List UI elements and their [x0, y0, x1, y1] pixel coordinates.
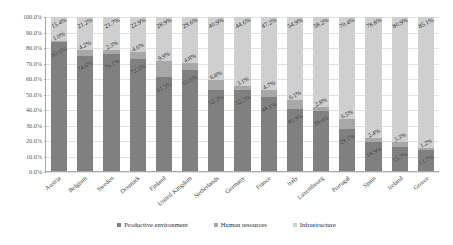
bar-segment-infrastructure[interactable]: 58.2% — [313, 17, 329, 107]
bar-value-label: 61.3% — [155, 80, 172, 93]
stacked-bar[interactable]: 40.9%6.8%52.3% — [208, 17, 224, 171]
bar-slot: 28.9%9.9%61.3% — [151, 17, 177, 171]
y-axis-tick-label: 100.0% — [2, 14, 42, 20]
x-axis-tick-label: Greece — [412, 175, 430, 191]
bar-slot: 80.9%3.3%15.7% — [387, 17, 413, 171]
x-axis-label-slot: Netherlands — [203, 172, 229, 217]
bar-segment-human-resources[interactable]: 6.5% — [339, 119, 355, 128]
bar-value-label: 74.6% — [77, 60, 94, 73]
bar-value-label: 39.0% — [313, 115, 330, 128]
bar-value-label: 40.9% — [286, 113, 303, 126]
stacked-bar[interactable]: 15.4%1.0%83.6% — [51, 17, 67, 171]
bar-segment-productive-environment[interactable]: 29.1% — [339, 129, 355, 171]
bar-segment-human-resources[interactable]: 6.1% — [287, 100, 303, 109]
x-axis-tick-label: Austria — [44, 175, 62, 192]
bar-value-label: 52.3% — [234, 94, 251, 107]
stacked-bar[interactable]: 85.1%1.2%13.7% — [418, 17, 434, 171]
bar-value-label: 21.7% — [103, 17, 120, 30]
bar-segment-productive-environment[interactable]: 52.3% — [208, 90, 224, 171]
bar-segment-productive-environment[interactable]: 13.7% — [418, 150, 434, 171]
bar-value-label: 21.2% — [77, 17, 94, 30]
x-axis-label-slot: Austria — [45, 172, 71, 217]
bar-value-label: 65.6% — [182, 74, 199, 87]
bar-segment-infrastructure[interactable]: 70.4% — [339, 17, 355, 119]
legend-entry[interactable]: Infrastructure — [293, 222, 336, 229]
legend-color-swatch — [117, 223, 121, 227]
stacked-bar[interactable]: 80.9%3.3%15.7% — [392, 17, 408, 171]
legend-entry[interactable]: Productive environment — [117, 222, 188, 229]
x-axis-label-slot: Portugal — [334, 172, 360, 217]
x-axis-tick-label: Finland — [148, 175, 167, 192]
y-axis-tick-label: 10.0% — [2, 153, 42, 159]
x-axis-label-slot: Greece — [413, 172, 439, 217]
x-axis-tick-label: Sweden — [95, 175, 114, 193]
bar-segment-productive-environment[interactable]: 40.9% — [287, 109, 303, 171]
bar-value-label: 70.4% — [339, 17, 356, 30]
legend-label: Productive environment — [124, 222, 188, 229]
bar-segment-human-resources[interactable]: 4.7% — [261, 90, 277, 97]
bar-slot: 47.2%4.7%48.1% — [256, 17, 282, 171]
bar-segment-infrastructure[interactable]: 54.9% — [287, 17, 303, 100]
y-axis-tick-label: 90.0% — [2, 29, 42, 35]
bar-slot: 58.2%2.8%39.0% — [308, 17, 334, 171]
bar-segment-productive-environment[interactable]: 83.6% — [51, 42, 67, 171]
stacked-bar[interactable]: 29.6%4.8%65.6% — [182, 17, 198, 171]
bar-segment-infrastructure[interactable]: 85.1% — [418, 17, 434, 148]
bar-value-label: 40.9% — [208, 17, 225, 30]
bar-segment-productive-environment[interactable]: 72.5% — [130, 59, 146, 171]
y-axis-tick-label: 20.0% — [2, 138, 42, 144]
bar-segment-productive-environment[interactable]: 18.9% — [365, 142, 381, 171]
stacked-bar[interactable]: 70.4%6.5%29.1% — [339, 17, 355, 171]
bar-segment-productive-environment[interactable]: 15.7% — [392, 147, 408, 171]
bar-slot: 21.2%4.2%74.6% — [72, 17, 98, 171]
bar-segment-infrastructure[interactable]: 80.9% — [392, 17, 408, 142]
x-axis-label-slot: Germany — [229, 172, 255, 217]
bar-value-label: 28.9% — [155, 17, 172, 30]
bar-value-label: 85.1% — [417, 17, 434, 30]
bar-slot: 70.4%6.5%29.1% — [334, 17, 360, 171]
x-axis-label-slot: Belgium — [71, 172, 97, 217]
bar-value-label: 58.2% — [313, 17, 330, 30]
stacked-bar[interactable]: 21.2%4.2%74.6% — [77, 17, 93, 171]
stacked-bar[interactable]: 21.7%2.3%76.1% — [103, 17, 119, 171]
bar-slot: 78.8%2.4%18.9% — [360, 17, 386, 171]
bar-value-label: 13.7% — [417, 154, 434, 167]
legend-label: Infrastructure — [300, 222, 336, 229]
bar-segment-productive-environment[interactable]: 52.3% — [234, 90, 250, 171]
stacked-bar[interactable]: 22.9%4.6%72.5% — [130, 17, 146, 171]
stacked-bar[interactable]: 78.8%2.4%18.9% — [365, 17, 381, 171]
bar-value-label: 78.8% — [365, 17, 382, 30]
x-axis-tick-label: Italy — [286, 175, 299, 187]
stacked-bar[interactable]: 28.9%9.9%61.3% — [156, 17, 172, 171]
bar-value-label: 15.4% — [51, 17, 68, 30]
bar-segment-productive-environment[interactable]: 39.0% — [313, 111, 329, 171]
bar-segment-infrastructure[interactable]: 47.2% — [261, 17, 277, 90]
bar-slot: 85.1%1.2%13.7% — [413, 17, 439, 171]
bar-value-label: 29.6% — [182, 17, 199, 30]
bar-segment-productive-environment[interactable]: 76.1% — [103, 54, 119, 171]
bar-segment-productive-environment[interactable]: 48.1% — [261, 97, 277, 171]
bar-segment-human-resources[interactable]: 9.9% — [156, 61, 172, 76]
stacked-bar[interactable]: 44.6%3.1%52.3% — [234, 17, 250, 171]
bar-slot: 22.9%4.6%72.5% — [125, 17, 151, 171]
y-axis-tick-label: 60.0% — [2, 76, 42, 82]
bar-segment-human-resources[interactable]: 6.8% — [208, 80, 224, 90]
bar-segment-productive-environment[interactable]: 65.6% — [182, 70, 198, 171]
y-axis-tick-label: 40.0% — [2, 107, 42, 113]
x-axis-tick-label: Portugal — [331, 175, 351, 194]
bar-segment-human-resources[interactable]: 4.6% — [130, 52, 146, 59]
stacked-bar[interactable]: 54.9%6.1%40.9% — [287, 17, 303, 171]
bar-segment-infrastructure[interactable]: 78.8% — [365, 17, 381, 138]
stacked-bar[interactable]: 47.2%4.7%48.1% — [261, 17, 277, 171]
bar-segment-productive-environment[interactable]: 74.6% — [77, 56, 93, 171]
bar-value-label: 54.9% — [286, 17, 303, 30]
y-axis-tick-label: 80.0% — [2, 45, 42, 51]
legend-entry[interactable]: Human resources — [214, 222, 267, 229]
y-axis-tick-label: 0.0% — [2, 169, 42, 175]
stacked-bar-chart: 100.0%90.0%80.0%70.0%60.0%50.0%40.0%30.0… — [0, 0, 453, 245]
stacked-bar[interactable]: 58.2%2.8%39.0% — [313, 17, 329, 171]
y-axis-tick-label: 50.0% — [2, 91, 42, 97]
bar-segment-productive-environment[interactable]: 61.3% — [156, 77, 172, 171]
bar-segment-human-resources[interactable]: 4.8% — [182, 63, 198, 70]
bar-value-label: 15.7% — [391, 150, 408, 163]
